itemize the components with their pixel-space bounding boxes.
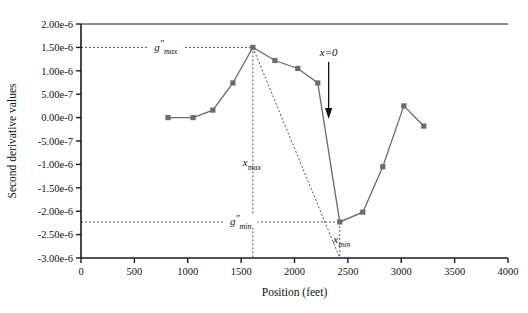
y-tick-label: 1.50e-6	[41, 42, 73, 53]
y-tick-label: 1.00e-6	[41, 66, 73, 77]
x-tick-label: 4000	[498, 266, 519, 277]
y-tick-label: -5.00e-7	[38, 136, 73, 147]
x-tick-label: 3500	[444, 266, 465, 277]
x-tick-label: 1500	[231, 266, 252, 277]
data-point-marker	[421, 123, 426, 128]
y-tick-label: -2.00e-6	[38, 206, 73, 217]
data-point-marker	[380, 164, 385, 169]
data-point-marker	[250, 45, 255, 50]
data-point-marker	[315, 80, 320, 85]
y-tick-label: 0.00e-0	[41, 112, 73, 123]
y-tick-label: 2.00e-6	[41, 19, 73, 30]
x-zero-label: x=0	[319, 46, 338, 58]
x-tick-label: 3000	[391, 266, 412, 277]
data-point-marker	[360, 210, 365, 215]
y-tick-label: -1.00e-6	[38, 159, 73, 170]
y-tick-label: 5.00e-7	[41, 89, 73, 100]
x-axis-title: Position (feet)	[262, 286, 328, 299]
data-point-marker	[401, 103, 406, 108]
second-derivative-line-chart: 2.00e-61.50e-61.00e-65.00e-70.00e-0-5.00…	[0, 0, 528, 313]
data-point-marker	[272, 58, 277, 63]
data-point-marker	[230, 80, 235, 85]
chart-figure: 2.00e-61.50e-61.00e-65.00e-70.00e-0-5.00…	[0, 0, 528, 313]
data-point-marker	[190, 115, 195, 120]
data-point-marker	[337, 219, 342, 224]
data-point-marker	[210, 108, 215, 113]
y-tick-label: -1.50e-6	[38, 183, 73, 194]
x-tick-label: 1000	[177, 266, 198, 277]
x-tick-label: 2000	[284, 266, 305, 277]
x-tick-label: 2500	[337, 266, 358, 277]
x-tick-label: 0	[78, 266, 83, 277]
y-axis-title: Second derivative values	[6, 83, 18, 198]
x-tick-label: 500	[127, 266, 143, 277]
data-point-marker	[295, 66, 300, 71]
y-tick-label: -3.00e-6	[38, 253, 73, 264]
y-tick-label: -2.50e-6	[38, 229, 73, 240]
data-point-marker	[165, 115, 170, 120]
